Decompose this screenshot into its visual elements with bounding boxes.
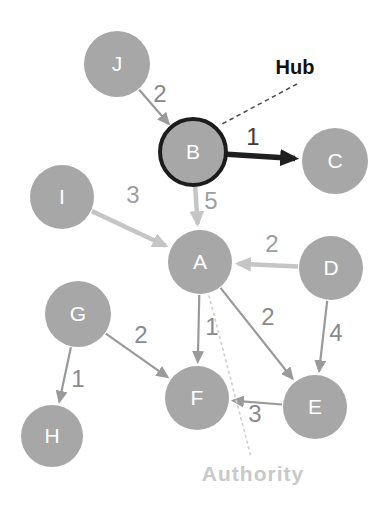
nodes-layer: JBCIADGFEH (21, 31, 368, 467)
node-label-E: E (308, 395, 322, 418)
authority-annotation-label: Authority (202, 462, 304, 485)
node-label-C: C (327, 149, 342, 172)
edge-G-H (59, 347, 71, 402)
edge-weight-J-B: 2 (153, 80, 166, 107)
edge-B-C (227, 154, 295, 158)
node-label-B: B (186, 140, 200, 163)
hub-authority-graph: 21532124321 JBCIADGFEH Hub Authority (0, 0, 387, 510)
node-label-D: D (323, 256, 338, 279)
edge-A-F (198, 295, 200, 362)
edge-weight-B-A: 5 (204, 187, 217, 214)
edge-weight-G-F: 2 (134, 321, 147, 348)
edge-weight-A-E: 2 (261, 303, 274, 330)
node-label-I: I (59, 185, 65, 208)
node-label-J: J (112, 52, 123, 75)
node-label-G: G (70, 302, 86, 325)
node-label-H: H (44, 424, 59, 447)
figure-canvas: 21532124321 JBCIADGFEH Hub Authority (0, 0, 387, 510)
edge-D-A (238, 264, 298, 267)
hub-annotation-label: Hub (276, 56, 315, 78)
hub-leader-line (222, 84, 297, 124)
node-label-F: F (191, 386, 204, 409)
edge-weight-D-A: 2 (265, 230, 278, 257)
edge-weight-I-A: 3 (126, 181, 139, 208)
edge-A-E (221, 288, 293, 379)
edge-weight-E-F: 3 (248, 400, 261, 427)
edge-weight-G-H: 1 (71, 365, 84, 392)
edge-B-A (195, 186, 197, 224)
edge-weight-D-E: 4 (329, 319, 342, 346)
node-label-A: A (193, 250, 207, 273)
edge-I-A (92, 211, 166, 246)
edge-D-E (319, 301, 327, 371)
edge-weight-B-C: 1 (246, 123, 259, 150)
